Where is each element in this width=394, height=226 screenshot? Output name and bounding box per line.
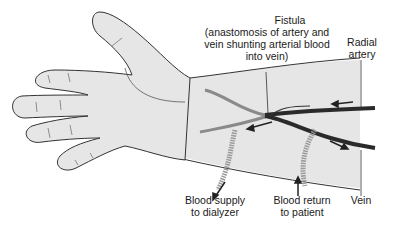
forearm — [185, 60, 360, 188]
supply-line-1: Blood supply — [180, 194, 250, 206]
return-line-2: to patient — [270, 206, 334, 218]
blood-return-label: Blood return to patient — [270, 194, 334, 218]
fistula-title: Fistula — [230, 14, 350, 26]
radial-line-1: Radial — [342, 36, 382, 48]
fistula-line-1: (anastomosis of artery and — [203, 26, 331, 38]
hand — [13, 12, 190, 170]
return-line-1: Blood return — [270, 194, 334, 206]
radial-line-2: artery — [342, 48, 382, 60]
supply-line-2: to dialyzer — [180, 206, 250, 218]
fistula-label: Fistula — [230, 14, 350, 26]
fistula-line-3: into vein) — [203, 50, 331, 62]
fistula-line-2: vein shunting arterial blood — [203, 38, 331, 50]
radial-artery-label: Radial artery — [342, 36, 382, 60]
blood-supply-label: Blood supply to dialyzer — [180, 194, 250, 218]
fistula-illustration — [0, 0, 394, 226]
fistula-description: (anastomosis of artery and vein shunting… — [203, 26, 331, 62]
vein-label: Vein — [346, 194, 376, 206]
